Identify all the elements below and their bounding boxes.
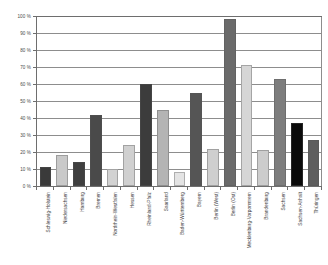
bar-schleswig-holstein: [40, 167, 52, 186]
x-tick-mark-8: [170, 187, 171, 190]
bar-chart: 0 %10 %20 %30 %40 %50 %60 %70 %80 %90 %1…: [0, 0, 328, 265]
y-tick-label-100: 100 %: [0, 14, 31, 19]
bars-layer: [37, 16, 322, 186]
bar-bayern: [190, 93, 202, 187]
x-tick-mark-4: [103, 187, 104, 190]
y-tick-mark-40: [33, 118, 36, 119]
bar-sachsen-anhalt: [291, 123, 303, 186]
x-tick-mark-17: [321, 187, 322, 190]
x-tick-mark-3: [86, 187, 87, 190]
bar-mecklenburg-vorpommern: [241, 65, 253, 186]
x-tick-mark-7: [153, 187, 154, 190]
x-tick-mark-12: [237, 187, 238, 190]
x-label-hamburg: Hamburg: [80, 192, 85, 212]
x-label-sachsen: Sachsen: [281, 192, 286, 211]
bar-niedersachsen: [56, 155, 68, 186]
x-label-bremen: Bremen: [96, 192, 101, 209]
x-tick-mark-1: [53, 187, 54, 190]
bar-nordrhein-westfalen: [107, 169, 119, 186]
y-tick-label-70: 70 %: [0, 65, 31, 70]
x-label-hessen: Hessen: [130, 192, 135, 208]
y-tick-label-40: 40 %: [0, 116, 31, 121]
y-tick-mark-30: [33, 135, 36, 136]
bar-saarland: [157, 110, 169, 187]
bar-brandenburg: [257, 150, 269, 186]
x-tick-mark-6: [137, 187, 138, 190]
x-label-schleswig-holstein: Schleswig-Holstein: [46, 192, 51, 233]
x-tick-mark-9: [187, 187, 188, 190]
x-label-baden-w-rttemberg: Baden-Württemberg: [180, 192, 185, 235]
x-label-mecklenburg-vorpommern: Mecklenburg-Vorpommern: [247, 192, 252, 248]
y-tick-mark-10: [33, 169, 36, 170]
x-label-rheinland-pfalz: Rheinland-Pfalz: [147, 192, 152, 226]
bar-hessen: [123, 145, 135, 186]
x-tick-mark-16: [304, 187, 305, 190]
y-tick-label-50: 50 %: [0, 99, 31, 104]
y-tick-mark-100: [33, 16, 36, 17]
x-tick-mark-11: [220, 187, 221, 190]
y-tick-mark-90: [33, 33, 36, 34]
x-tick-mark-0: [36, 187, 37, 190]
bar-rheinland-pfalz: [140, 84, 152, 186]
x-tick-mark-14: [271, 187, 272, 190]
y-tick-mark-50: [33, 101, 36, 102]
bar-berlin-west: [207, 149, 219, 186]
x-label-berlin-west: Berlin (West): [214, 192, 219, 220]
plot-area: [36, 16, 322, 187]
y-tick-label-60: 60 %: [0, 82, 31, 87]
bar-baden-w-rttemberg: [174, 172, 186, 186]
x-label-sachsen-anhalt: Sachsen-Anhalt: [298, 192, 303, 226]
x-label-bayern: Bayern: [197, 192, 202, 207]
y-tick-mark-20: [33, 152, 36, 153]
x-label-berlin-ost: Berlin (Ost): [231, 192, 236, 216]
x-tick-mark-13: [254, 187, 255, 190]
x-tick-mark-2: [70, 187, 71, 190]
bar-hamburg: [73, 162, 85, 186]
bar-sachsen: [274, 79, 286, 186]
y-tick-label-20: 20 %: [0, 150, 31, 155]
x-label-saarland: Saarland: [164, 192, 169, 211]
x-label-niedersachsen: Niedersachsen: [63, 192, 68, 224]
x-label-brandenburg: Brandenburg: [264, 192, 269, 220]
y-tick-label-30: 30 %: [0, 133, 31, 138]
bar-th-ringen: [308, 140, 320, 186]
x-tick-mark-15: [287, 187, 288, 190]
y-tick-label-80: 80 %: [0, 48, 31, 53]
y-tick-mark-80: [33, 50, 36, 51]
x-label-nordrhein-westfalen: Nordrhein-Westfalen: [113, 192, 118, 236]
x-label-th-ringen: Thüringen: [314, 192, 319, 214]
y-tick-mark-60: [33, 84, 36, 85]
x-tick-mark-5: [120, 187, 121, 190]
y-tick-label-10: 10 %: [0, 167, 31, 172]
bar-bremen: [90, 115, 102, 186]
x-axis-labels: Schleswig-HolsteinNiedersachsenHamburgBr…: [36, 189, 322, 263]
y-tick-label-90: 90 %: [0, 31, 31, 36]
bar-berlin-ost: [224, 19, 236, 186]
y-tick-mark-70: [33, 67, 36, 68]
y-tick-label-0: 0 %: [0, 184, 31, 189]
x-tick-mark-10: [204, 187, 205, 190]
